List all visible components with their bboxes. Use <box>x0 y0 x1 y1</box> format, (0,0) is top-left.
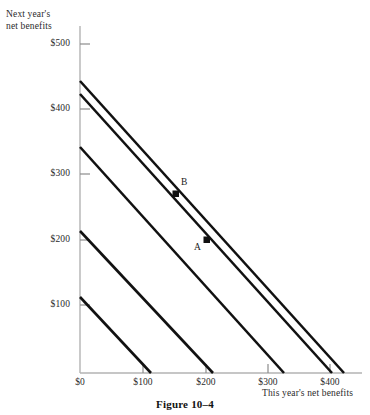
x-tick-label-0: $0 <box>57 377 103 387</box>
x-tick-label-300: $300 <box>245 377 291 387</box>
y-tick-label-100: $100 <box>24 299 70 309</box>
data-point-a-marker <box>204 237 211 244</box>
x-tick-label-400: $400 <box>307 377 353 387</box>
figure-caption: Figure 10–4 <box>0 398 370 410</box>
y-tick-label-300: $300 <box>24 168 70 178</box>
y-tick-label-200: $200 <box>24 234 70 244</box>
budget-lines <box>80 81 344 373</box>
data-point-b-marker <box>173 191 180 198</box>
budget-line-1 <box>80 81 344 373</box>
data-point-label-a: A <box>194 242 201 252</box>
y-tick-label-400: $400 <box>24 103 70 113</box>
x-tick-marks <box>143 364 330 373</box>
data-point-label-b: B <box>181 177 187 187</box>
figure-container: Next year's net benefits This year's net… <box>0 0 370 415</box>
plot-area <box>0 0 370 415</box>
x-tick-label-200: $200 <box>183 377 229 387</box>
budget-line-4 <box>80 231 213 373</box>
y-tick-label-500: $500 <box>24 38 70 48</box>
x-tick-label-100: $100 <box>120 377 166 387</box>
budget-line-5 <box>80 297 151 373</box>
budget-line-2 <box>80 94 332 373</box>
